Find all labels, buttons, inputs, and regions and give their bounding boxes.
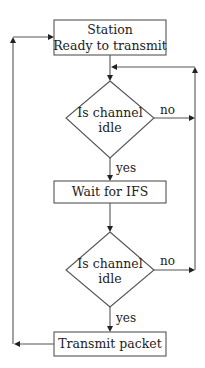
node-station-ready-line1: Station xyxy=(87,22,133,37)
flowchart: Station Ready to transmit Is channel idl… xyxy=(0,0,205,368)
edge-start-to-check1 xyxy=(107,55,113,81)
arrow-left-icon xyxy=(111,64,117,70)
label-yes-1: yes xyxy=(115,161,136,175)
arrow-up-icon xyxy=(192,67,198,73)
edge-transmit-loop xyxy=(10,34,54,347)
node-transmit-packet-label: Transmit packet xyxy=(58,336,162,351)
check2-line2: idle xyxy=(98,271,121,286)
label-yes-2: yes xyxy=(115,311,136,325)
check1-line1: Is channel xyxy=(77,105,142,120)
arrow-down-icon xyxy=(107,226,113,232)
node-station-ready-line2: Ready to transmit xyxy=(53,38,167,53)
node-transmit-packet: Transmit packet xyxy=(54,332,166,356)
arrow-right-icon xyxy=(189,267,195,273)
edge-check2-no: no xyxy=(154,254,195,273)
arrow-down-icon xyxy=(107,175,113,181)
node-station-ready: Station Ready to transmit xyxy=(53,20,167,55)
node-check-channel-idle-1: Is channel idle xyxy=(66,81,154,158)
check1-line2: idle xyxy=(98,120,121,135)
edge-wait-to-check2 xyxy=(107,203,113,232)
arrow-up-icon xyxy=(10,37,16,43)
label-no-2: no xyxy=(160,254,175,268)
edge-check1-yes: yes xyxy=(107,158,136,181)
arrow-down-icon xyxy=(107,75,113,81)
arrow-right-icon xyxy=(189,115,195,121)
arrow-left-icon xyxy=(14,341,20,347)
node-wait-for-ifs: Wait for IFS xyxy=(54,181,166,203)
arrow-down-icon xyxy=(107,326,113,332)
label-no-1: no xyxy=(160,103,175,117)
check2-line1: Is channel xyxy=(77,256,142,271)
node-check-channel-idle-2: Is channel idle xyxy=(66,232,154,307)
edge-check2-yes: yes xyxy=(107,307,136,332)
edge-check1-no: no xyxy=(154,103,195,121)
node-wait-for-ifs-label: Wait for IFS xyxy=(72,184,148,199)
